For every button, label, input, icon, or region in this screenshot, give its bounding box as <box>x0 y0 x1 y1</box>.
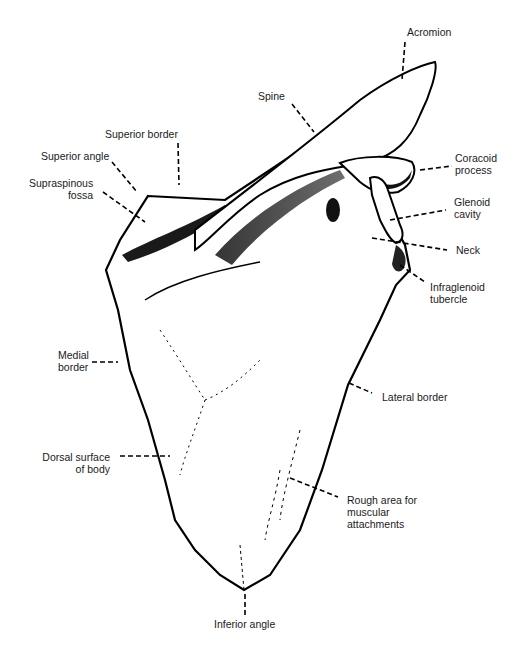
label-infraglenoid-tubercle: Infraglenoidtubercle <box>430 281 485 305</box>
leader-coracoid <box>420 166 452 170</box>
label-lateral-border: Lateral border <box>382 391 447 403</box>
label-neck: Neck <box>456 244 480 256</box>
label-dorsal-surface: Dorsal surfaceof body <box>30 451 110 475</box>
leader-superior-border <box>178 143 179 185</box>
leader-spine <box>292 104 314 132</box>
label-glenoid-cavity: Glenoidcavity <box>454 196 490 220</box>
leader-lateral-border <box>349 383 372 393</box>
leader-supraspinous <box>103 192 145 222</box>
scapula-diagram: Acromion Spine Superior border Superior … <box>0 0 528 650</box>
label-superior-border: Superior border <box>105 128 178 140</box>
label-supraspinous-fossa: Supraspinousfossa <box>29 177 93 201</box>
leader-glenoid <box>390 210 446 220</box>
label-coracoid-process: Coracoidprocess <box>455 152 497 176</box>
label-acromion: Acromion <box>407 26 451 38</box>
leader-superior-angle <box>112 162 137 192</box>
label-medial-border: Medialborder <box>58 349 89 373</box>
label-inferior-angle: Inferior angle <box>214 618 275 630</box>
label-superior-angle: Superior angle <box>41 150 109 162</box>
label-spine: Spine <box>258 90 285 102</box>
label-rough-area: Rough area formuscularattachments <box>347 494 417 530</box>
